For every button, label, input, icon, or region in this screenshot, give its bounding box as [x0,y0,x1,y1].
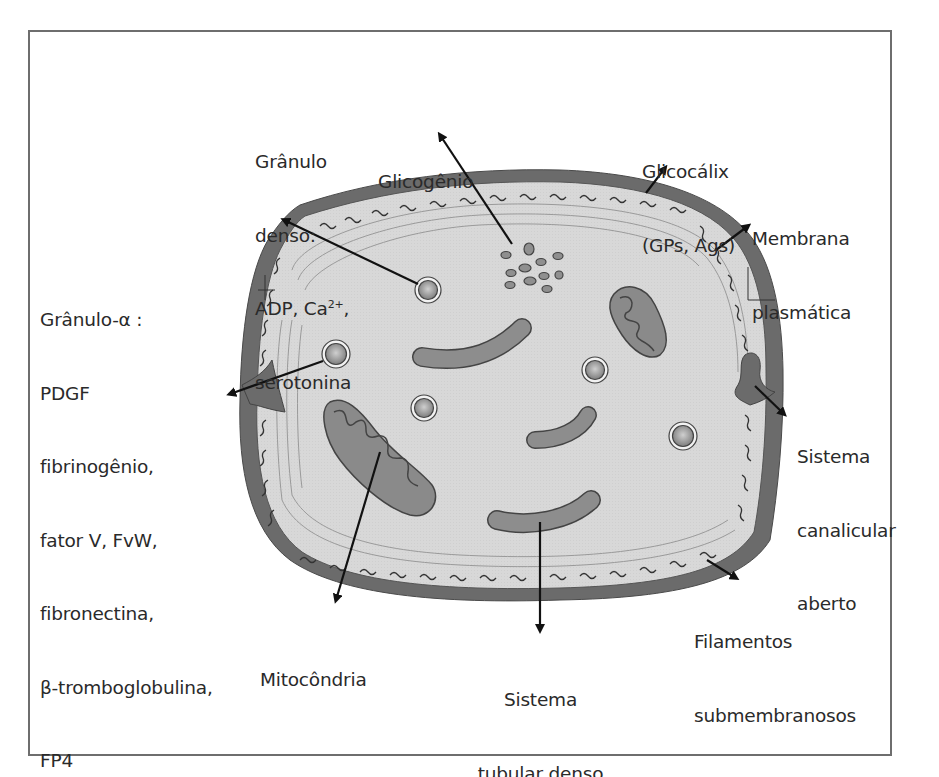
label-dense-granule: Grânulo denso: ADP, Ca2+, serotonina [255,101,351,420]
label-glycogen: Glicogênio [378,121,473,219]
alpha-granule [669,422,697,450]
label-alpha-granule: Grânulo-α : PDGF fibrinogênio, fator V, … [40,259,213,777]
label-submembrane-filaments: Filamentos submembranosos [694,581,856,753]
label-mitochondrion: Mitocôndria [260,619,367,717]
alpha-granule [411,395,437,421]
alpha-granule [582,357,608,383]
dense-granule [415,277,441,303]
label-dense-tubular-system: Sistema tubular denso [463,639,618,777]
label-glycocalyx: Glicocálix (GPs, Ags) [642,111,735,283]
label-plasma-membrane: Membrana plasmática [752,178,851,350]
